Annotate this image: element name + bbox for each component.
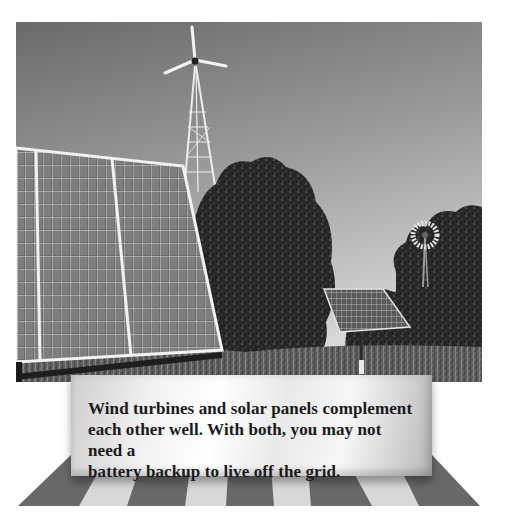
caption-line-1: Wind turbines and solar panels complemen…	[88, 398, 416, 419]
wind-solar-photo	[16, 22, 482, 382]
photo-scene	[16, 22, 482, 382]
caption-line-2: each other well. With both, you may not …	[88, 419, 416, 461]
caption-box: Wind turbines and solar panels complemen…	[71, 375, 432, 476]
caption-line-3: battery backup to live off the grid.	[88, 461, 416, 482]
